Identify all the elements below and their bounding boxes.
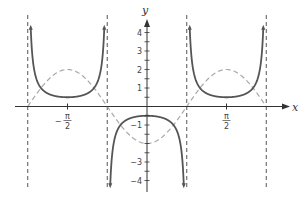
y-tick-label: −4 xyxy=(130,177,142,186)
curve-arrow-icon xyxy=(108,183,112,188)
curve-arrow-icon xyxy=(29,25,33,30)
x-tick-label-sign: − xyxy=(55,117,62,126)
x-tick-label-numerator: π xyxy=(224,112,229,121)
y-tick-label: 3 xyxy=(137,47,142,56)
x-tick-label-denominator: 2 xyxy=(224,122,229,131)
x-tick-label-denominator: 2 xyxy=(65,122,70,131)
y-tick-label: −3 xyxy=(130,158,142,167)
y-tick-label: 1 xyxy=(137,84,142,93)
y-tick-label: 4 xyxy=(137,29,142,38)
y-axis-arrow-icon xyxy=(144,19,150,27)
curve-arrow-icon xyxy=(182,183,186,188)
y-tick-label: −1 xyxy=(130,121,142,130)
chart: 4321−1−3−4π2−π2 x y xyxy=(0,0,305,198)
x-axis-arrow-icon xyxy=(282,104,290,110)
curve-arrow-icon xyxy=(188,25,192,30)
curve-arrow-icon xyxy=(102,25,106,30)
y-axis-label: y xyxy=(141,4,149,17)
x-tick-label-numerator: π xyxy=(65,112,70,121)
x-axis-label: x xyxy=(292,101,299,114)
y-tick-label: 2 xyxy=(137,66,142,75)
curve-arrow-icon xyxy=(261,25,265,30)
axes xyxy=(15,19,290,192)
